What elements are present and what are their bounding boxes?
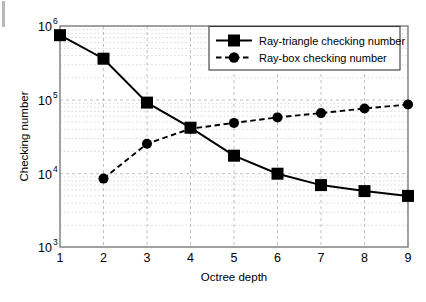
x-tick-label-1: 1: [57, 251, 64, 265]
y-axis-title: Checking number: [18, 91, 30, 181]
legend-marker-square-icon: [228, 35, 240, 47]
y-tick-exp-10000: 4: [53, 164, 58, 174]
log-line-chart: 10 3 10 4 10 5 10 6 1 2 3 4 5 6 7 8 9 Oc…: [0, 0, 426, 302]
page-edge-marker: [2, 1, 5, 27]
y-tick-exp-1000000: 6: [53, 16, 58, 26]
x-axis-tick-labels: 1 2 3 4 5 6 7 8 9: [57, 251, 412, 265]
x-tick-label-4: 4: [187, 251, 194, 265]
chart-figure: 10 3 10 4 10 5 10 6 1 2 3 4 5 6 7 8 9 Oc…: [0, 0, 426, 302]
legend-label-ray-box: Ray-box checking number: [259, 52, 387, 64]
x-tick-label-3: 3: [144, 251, 151, 265]
y-tick-exp-1000: 3: [53, 237, 58, 247]
y-tick-label-1000: 10: [38, 241, 52, 255]
legend-label-ray-triangle: Ray-triangle checking number: [259, 35, 405, 47]
y-tick-label-1000000: 10: [38, 20, 52, 34]
x-axis-title: Octree depth: [201, 271, 267, 283]
x-tick-label-7: 7: [318, 251, 325, 265]
legend-marker-circle-icon: [229, 52, 239, 62]
x-tick-label-6: 6: [274, 251, 281, 265]
y-tick-label-100000: 10: [38, 94, 52, 108]
chart-legend: Ray-triangle checking number Ray-box che…: [209, 27, 405, 71]
y-tick-label-10000: 10: [38, 168, 52, 182]
x-tick-label-9: 9: [405, 251, 412, 265]
y-tick-exp-100000: 5: [53, 90, 58, 100]
y-axis-tick-labels: 10 3 10 4 10 5 10 6: [38, 16, 58, 255]
x-tick-label-2: 2: [100, 251, 107, 265]
x-tick-label-8: 8: [361, 251, 368, 265]
x-tick-label-5: 5: [231, 251, 238, 265]
